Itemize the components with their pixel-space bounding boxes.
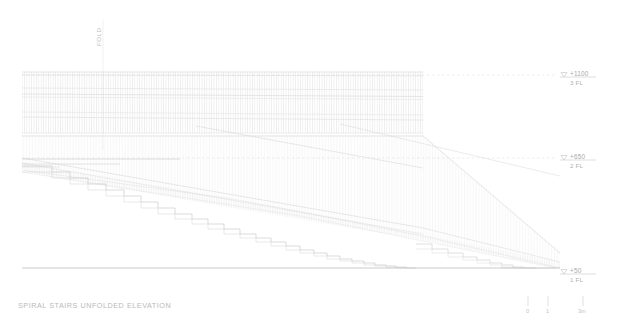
drawing-title: SPIRAL STAIRS UNFOLDED ELEVATION — [18, 301, 171, 310]
scale-label-0: 0 — [526, 308, 529, 314]
level-name-3fl: 3 FL — [570, 79, 584, 86]
level-name-1fl: 1 FL — [570, 276, 584, 283]
fold-label: FOLD — [95, 28, 102, 46]
level-value-2fl: +650 — [570, 153, 585, 160]
scale-label-3m: 3m — [578, 308, 586, 314]
scale-label-1: 1 — [546, 308, 549, 314]
architectural-drawing-root: FOLD +1100 3 FL +650 2 FL +50 1 FL SPIRA… — [0, 0, 618, 336]
elevation-drawing-canvas: FOLD +1100 3 FL +650 2 FL +50 1 FL SPIRA… — [0, 0, 618, 336]
upper-floor-hatch-block — [22, 72, 423, 134]
level-name-2fl: 2 FL — [570, 162, 584, 169]
level-value-1fl: +50 — [570, 267, 582, 274]
level-value-3fl: +1100 — [570, 70, 589, 77]
